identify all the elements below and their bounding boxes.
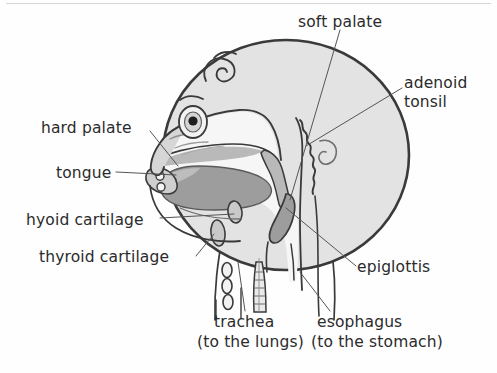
label-adenoid-tonsil: adenoid tonsil bbox=[404, 74, 492, 112]
trachea-group bbox=[216, 263, 241, 319]
trachea-ring bbox=[223, 295, 233, 310]
label-soft-palate: soft palate bbox=[298, 13, 382, 32]
trachea-ring bbox=[222, 263, 232, 278]
label-esophagus: esophagus bbox=[317, 313, 402, 332]
label-adenoid-tonsil-line2: tonsil bbox=[404, 93, 492, 112]
pupil bbox=[188, 116, 197, 125]
label-epiglottis: epiglottis bbox=[357, 258, 430, 277]
label-hyoid-cartilage: hyoid cartilage bbox=[26, 211, 144, 230]
trachea-ring bbox=[222, 279, 232, 294]
diagram-page: soft palate adenoid tonsil hard palate t… bbox=[0, 0, 497, 373]
label-hard-palate: hard palate bbox=[41, 119, 132, 138]
leader-esophagus bbox=[300, 272, 330, 311]
label-adenoid-tonsil-line1: adenoid bbox=[404, 74, 492, 93]
label-trachea: trachea bbox=[214, 313, 274, 332]
label-trachea-sublabel: (to the lungs) bbox=[197, 333, 304, 352]
label-tongue: tongue bbox=[56, 164, 111, 183]
label-thyroid-cartilage: thyroid cartilage bbox=[39, 248, 169, 267]
lower-lip-circle bbox=[157, 183, 165, 191]
label-esophagus-sublabel: (to the stomach) bbox=[311, 333, 443, 352]
